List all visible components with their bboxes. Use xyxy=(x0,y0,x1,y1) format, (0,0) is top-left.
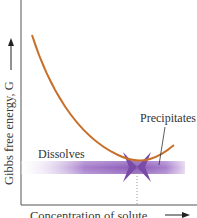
gibbs-energy-diagram: Gibbs free energy, G Concentration of so… xyxy=(0,0,197,218)
dissolves-label: Dissolves xyxy=(38,147,85,162)
x-axis-arrow-icon xyxy=(165,212,190,218)
y-axis-label: Gibbs free energy, G xyxy=(2,81,17,185)
y-axis-arrow-icon xyxy=(8,38,14,70)
diagram-canvas xyxy=(0,0,197,218)
x-axis-label: Concentration of solute xyxy=(30,209,147,218)
gibbs-energy-curve xyxy=(32,35,174,160)
precipitates-leader-line xyxy=(159,127,165,165)
precipitates-label: Precipitates xyxy=(140,111,196,126)
